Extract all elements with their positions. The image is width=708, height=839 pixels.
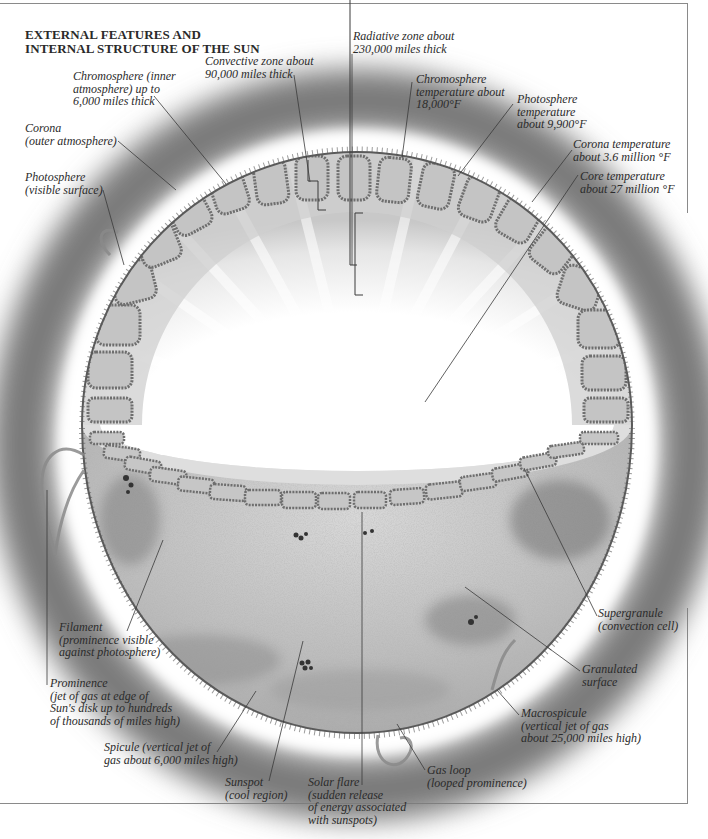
label-line: Radiative zone about xyxy=(353,30,454,43)
label-line: 90,000 miles thick xyxy=(205,68,314,81)
label-line: about 9,900°F xyxy=(517,118,586,131)
label-convective-zone: Convective zone about 90,000 miles thick xyxy=(205,55,314,80)
label-granulated-surface: Granulated surface xyxy=(582,663,637,688)
label-line: Sunspot xyxy=(225,776,288,789)
label-chromosphere: Chromosphere (inner atmosphere) up to 6,… xyxy=(73,70,176,108)
label-line: Macrospicule xyxy=(521,707,641,720)
label-solar-flare: Solar flare (sudden release of energy as… xyxy=(308,776,406,826)
label-line: (convection cell) xyxy=(598,620,678,633)
label-line: Filament xyxy=(59,621,160,634)
label-line: (visible surface) xyxy=(25,184,103,197)
label-line: Sun's disk up to hundreds xyxy=(50,702,180,715)
label-line: against photosphere) xyxy=(59,646,160,659)
label-line: Supergranule xyxy=(598,607,678,620)
label-gas-loop: Gas loop (looped prominence) xyxy=(427,764,527,789)
label-line: Gas loop xyxy=(427,764,527,777)
label-chromosphere-temperature: Chromosphere temperature about 18,000°F xyxy=(416,73,505,111)
label-line: 18,000°F xyxy=(416,98,505,111)
label-line: Photosphere xyxy=(25,171,103,184)
label-line: Corona temperature xyxy=(573,138,670,151)
label-line: Spicule (vertical jet of xyxy=(104,741,238,754)
label-filament: Filament (prominence visible against pho… xyxy=(59,621,160,659)
label-line: gas about 6,000 miles high) xyxy=(104,754,238,767)
label-prominence: Prominence (jet of gas at edge of Sun's … xyxy=(50,677,180,727)
label-sunspot: Sunspot (cool region) xyxy=(225,776,288,801)
label-line: Prominence xyxy=(50,677,180,690)
label-corona-temperature: Corona temperature about 3.6 million °F xyxy=(573,138,670,163)
label-corona: Corona (outer atmosphere) xyxy=(25,122,117,147)
label-line: surface xyxy=(582,676,637,689)
label-spicule: Spicule (vertical jet of gas about 6,000… xyxy=(104,741,238,766)
label-line: Chromosphere xyxy=(416,73,505,86)
label-line: about 25,000 miles high) xyxy=(521,732,641,745)
label-radiative-zone: Radiative zone about 230,000 miles thick xyxy=(353,30,454,55)
label-line: of thousands of miles high) xyxy=(50,715,180,728)
label-line: of energy associated xyxy=(308,801,406,814)
label-photosphere-temperature: Photosphere temperature about 9,900°F xyxy=(517,93,586,131)
label-core-temperature: Core temperature about 27 million °F xyxy=(580,170,674,195)
label-line: about 3.6 million °F xyxy=(573,151,670,164)
label-macrospicule: Macrospicule (vertical jet of gas about … xyxy=(521,707,641,745)
label-line: Convective zone about xyxy=(205,55,314,68)
label-line: about 27 million °F xyxy=(580,183,674,196)
label-line: 230,000 miles thick xyxy=(353,43,454,56)
label-line: Corona xyxy=(25,122,117,135)
diagram-title: EXTERNAL FEATURES AND INTERNAL STRUCTURE… xyxy=(25,28,260,56)
label-line: (cool region) xyxy=(225,789,288,802)
label-line: Solar flare xyxy=(308,776,406,789)
label-line: with sunspots) xyxy=(308,814,406,827)
label-line: Granulated xyxy=(582,663,637,676)
sun-structure-diagram: EXTERNAL FEATURES AND INTERNAL STRUCTURE… xyxy=(0,0,708,839)
label-line: (looped prominence) xyxy=(427,777,527,790)
title-line-1: EXTERNAL FEATURES AND xyxy=(25,28,260,42)
label-line: Core temperature xyxy=(580,170,674,183)
label-line: Chromosphere (inner xyxy=(73,70,176,83)
label-line: Photosphere xyxy=(517,93,586,106)
label-photosphere: Photosphere (visible surface) xyxy=(25,171,103,196)
label-line: (outer atmosphere) xyxy=(25,135,117,148)
label-supergranule: Supergranule (convection cell) xyxy=(598,607,678,632)
label-line: 6,000 miles thick xyxy=(73,95,176,108)
